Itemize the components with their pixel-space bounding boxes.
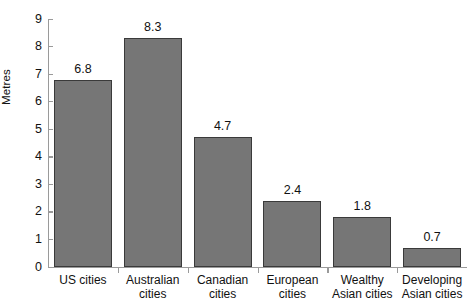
y-axis-tick — [48, 267, 53, 268]
y-axis-tick-label: 0 — [14, 261, 42, 274]
bar-value-label: 8.3 — [123, 21, 183, 34]
x-axis-tick — [118, 268, 119, 273]
y-axis-tick-label: 6 — [14, 95, 42, 108]
y-axis-tick-label: 9 — [14, 13, 42, 26]
bar-value-label: 0.7 — [402, 231, 462, 244]
y-axis-tick-label: 5 — [14, 123, 42, 136]
bar-value-label: 6.8 — [53, 63, 113, 76]
x-axis-category-label: Developing Asian cities — [394, 274, 467, 301]
bar-value-label: 2.4 — [262, 184, 322, 197]
x-axis-tick — [327, 268, 328, 273]
x-axis-category-label: European cities — [254, 274, 330, 301]
bar — [333, 217, 391, 267]
y-axis-tick — [48, 239, 53, 240]
bar-value-label: 1.8 — [332, 200, 392, 213]
x-axis-category-label: Wealthy Asian cities — [324, 274, 400, 301]
bar — [54, 80, 112, 267]
bar — [263, 201, 321, 267]
bar — [194, 137, 252, 267]
bar — [124, 38, 182, 267]
x-axis-category-label: Australian cities — [115, 274, 191, 301]
x-axis-tick — [258, 268, 259, 273]
x-axis-tick — [397, 268, 398, 273]
bar — [403, 248, 461, 267]
bar-value-label: 4.7 — [193, 120, 253, 133]
y-axis-tick — [48, 184, 53, 185]
y-axis-tick — [48, 19, 53, 20]
y-axis-tick-label: 3 — [14, 178, 42, 191]
y-axis-tick-label: 7 — [14, 68, 42, 81]
y-axis-title: Metres — [0, 47, 12, 127]
y-axis-tick-label: 2 — [14, 205, 42, 218]
y-axis-tick-label: 8 — [14, 40, 42, 53]
x-axis-category-label: Canadian cities — [185, 274, 261, 301]
y-axis-tick-label: 1 — [14, 233, 42, 246]
y-axis-tick — [48, 211, 53, 212]
y-axis-tick — [48, 156, 53, 157]
x-axis-category-label: US cities — [45, 274, 121, 288]
y-axis-tick — [48, 101, 53, 102]
y-axis-tick-label: 4 — [14, 150, 42, 163]
bar-chart: Metres 0123456789 6.88.34.72.41.80.7 US … — [0, 0, 467, 304]
x-axis-tick — [188, 268, 189, 273]
y-axis-line — [48, 19, 49, 268]
y-axis-tick — [48, 46, 53, 47]
y-axis-tick — [48, 129, 53, 130]
